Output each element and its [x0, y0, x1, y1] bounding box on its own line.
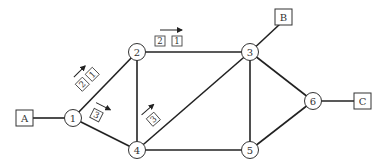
host-label: A — [20, 113, 29, 124]
router-label: 2 — [134, 47, 140, 58]
host-c: C — [354, 93, 371, 109]
packet-tags-link-2-3: 2 1 — [155, 30, 182, 46]
router-label: 6 — [310, 96, 316, 107]
host-label: C — [359, 96, 367, 107]
link-5-6 — [250, 101, 313, 150]
packet-tags-link-4-3: 3 — [142, 104, 165, 127]
router-6: 6 — [305, 93, 322, 110]
network-diagram: 2 1 2 1 3 3 A B C 1 2 — [0, 0, 384, 168]
packet-tags-link-1-2: 2 1 — [71, 63, 99, 91]
router-label: 1 — [70, 113, 76, 124]
router-1: 1 — [65, 110, 82, 127]
packet-tags-link-1-4: 3 — [89, 103, 111, 125]
router-label: 5 — [247, 145, 253, 156]
router-4: 4 — [129, 142, 146, 159]
arrow-icon — [74, 66, 85, 77]
arrow-icon — [96, 103, 110, 110]
router-5: 5 — [242, 142, 259, 159]
router-label: 3 — [247, 47, 253, 58]
packet-tag-label: 2 — [157, 36, 162, 46]
router-2: 2 — [129, 44, 146, 61]
link-4-3 — [137, 52, 250, 150]
link-3-6 — [250, 52, 313, 101]
link-1-4 — [73, 118, 137, 150]
arrow-icon — [142, 104, 154, 114]
host-b: B — [275, 9, 292, 25]
host-label: B — [280, 12, 287, 23]
packet-tag-label: 1 — [174, 36, 179, 46]
router-label: 4 — [134, 145, 140, 156]
router-3: 3 — [242, 44, 259, 61]
host-a: A — [16, 110, 33, 126]
